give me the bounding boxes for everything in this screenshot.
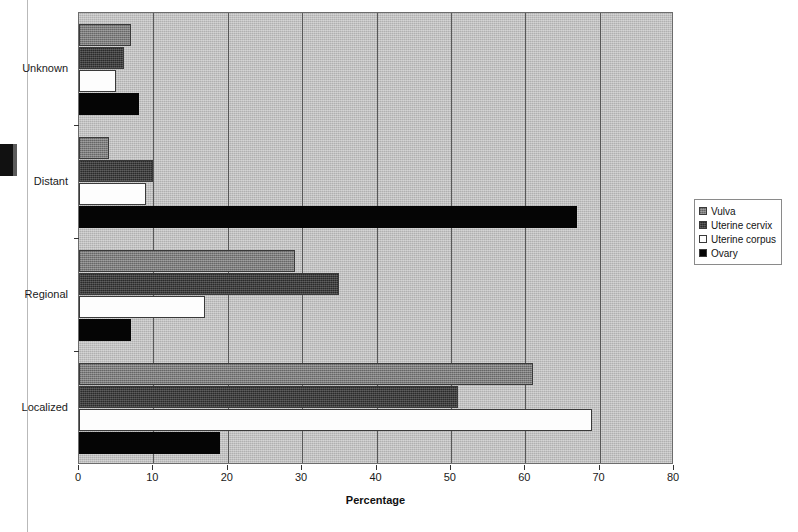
x-axis-title: Percentage bbox=[78, 494, 673, 506]
legend-label: Uterine cervix bbox=[711, 220, 772, 231]
legend-label: Vulva bbox=[711, 206, 736, 217]
x-axis-tick-label: 80 bbox=[653, 471, 693, 483]
legend-swatch-vulva-icon bbox=[699, 207, 707, 215]
bar-ovary-distant bbox=[79, 206, 577, 228]
legend-item: Ovary bbox=[699, 246, 776, 260]
x-axis-tick bbox=[673, 465, 674, 470]
x-axis-tick-label: 10 bbox=[132, 471, 172, 483]
y-axis-category-label: Distant bbox=[0, 175, 68, 187]
bar-uterine-cervix-regional bbox=[79, 273, 339, 295]
legend-swatch-ovary-icon bbox=[699, 249, 707, 257]
x-axis-tick bbox=[78, 465, 79, 470]
bar-chart-figure: 01020304050607080 LocalizedRegionalDista… bbox=[0, 0, 798, 532]
x-axis-tick-label: 60 bbox=[504, 471, 544, 483]
x-axis-tick bbox=[227, 465, 228, 470]
bar-vulva-distant bbox=[79, 137, 109, 159]
y-axis-tick bbox=[74, 238, 79, 239]
bar-uterine-cervix-distant bbox=[79, 160, 153, 182]
y-axis-tick bbox=[74, 351, 79, 352]
gridline bbox=[525, 13, 526, 463]
x-axis-tick-label: 30 bbox=[281, 471, 321, 483]
legend-item: Uterine corpus bbox=[699, 232, 776, 246]
legend-label: Uterine corpus bbox=[711, 234, 776, 245]
x-axis-tick bbox=[152, 465, 153, 470]
x-axis-tick bbox=[599, 465, 600, 470]
plot-area bbox=[78, 12, 673, 464]
y-axis-category-label: Regional bbox=[0, 288, 68, 300]
bar-vulva-localized bbox=[79, 363, 533, 385]
x-axis-tick bbox=[450, 465, 451, 470]
x-axis-tick bbox=[524, 465, 525, 470]
bar-uterine-corpus-localized bbox=[79, 409, 592, 431]
legend-item: Uterine cervix bbox=[699, 218, 776, 232]
y-axis-tick bbox=[74, 125, 79, 126]
legend-label: Ovary bbox=[711, 248, 738, 259]
x-axis-tick-label: 40 bbox=[356, 471, 396, 483]
bar-ovary-regional bbox=[79, 319, 131, 341]
legend-swatch-uterine-corpus-icon bbox=[699, 235, 707, 243]
bar-ovary-unknown bbox=[79, 93, 139, 115]
bar-uterine-corpus-distant bbox=[79, 183, 146, 205]
bar-uterine-cervix-localized bbox=[79, 386, 458, 408]
bar-uterine-corpus-regional bbox=[79, 296, 205, 318]
y-axis-category-label: Unknown bbox=[0, 62, 68, 74]
x-axis-tick bbox=[376, 465, 377, 470]
legend: Vulva Uterine cervix Uterine corpus Ovar… bbox=[694, 199, 782, 265]
y-axis-category-label: Localized bbox=[0, 401, 68, 413]
legend-item: Vulva bbox=[699, 204, 776, 218]
bar-vulva-regional bbox=[79, 250, 295, 272]
bar-ovary-localized bbox=[79, 432, 220, 454]
x-axis-tick-label: 20 bbox=[207, 471, 247, 483]
x-axis-tick bbox=[301, 465, 302, 470]
x-axis-tick-label: 50 bbox=[430, 471, 470, 483]
x-axis-tick-label: 70 bbox=[579, 471, 619, 483]
bar-uterine-corpus-unknown bbox=[79, 70, 116, 92]
legend-swatch-uterine-cervix-icon bbox=[699, 221, 707, 229]
x-axis-tick-label: 0 bbox=[58, 471, 98, 483]
bar-vulva-unknown bbox=[79, 24, 131, 46]
gridline bbox=[600, 13, 601, 463]
bar-uterine-cervix-unknown bbox=[79, 47, 124, 69]
